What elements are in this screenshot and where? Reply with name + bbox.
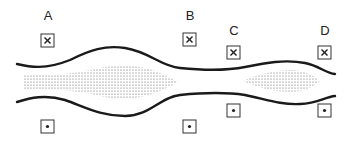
station-label-c: C <box>229 23 238 38</box>
x-icon <box>322 50 328 56</box>
left-stippled-region <box>24 65 178 99</box>
out-of-page-marker-d <box>318 104 331 117</box>
lower-vessel-wall <box>17 93 335 116</box>
x-icon <box>187 37 193 43</box>
station-label-d: D <box>320 23 329 38</box>
out-of-page-marker-a <box>41 120 54 133</box>
station-a: A <box>41 8 54 133</box>
into-page-marker-b <box>183 33 196 46</box>
out-of-page-marker-c <box>227 104 240 117</box>
out-of-page-marker-b <box>183 120 196 133</box>
x-icon <box>45 38 51 44</box>
into-page-marker-c <box>227 46 240 59</box>
into-page-marker-a <box>41 34 54 47</box>
into-page-marker-d <box>318 46 331 59</box>
station-label-a: A <box>44 8 53 23</box>
dot-icon <box>232 109 235 112</box>
vessel-diagram: A B C <box>0 0 351 143</box>
dot-icon <box>188 125 191 128</box>
right-stippled-region <box>243 70 320 92</box>
dot-icon <box>323 109 326 112</box>
station-label-b: B <box>186 8 195 23</box>
station-b: B <box>183 8 196 133</box>
x-icon <box>231 50 237 56</box>
dot-icon <box>46 125 49 128</box>
upper-vessel-wall <box>17 47 335 74</box>
